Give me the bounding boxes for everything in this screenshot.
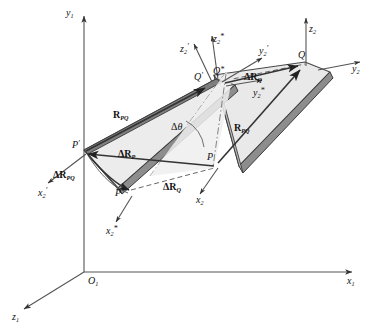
x1-axis-sub: 1 bbox=[351, 280, 354, 287]
delta-R-PQ-sub: PQ bbox=[67, 174, 76, 181]
point-P-star-label: P bbox=[114, 187, 121, 198]
delta-R-P-sub: P bbox=[132, 153, 136, 160]
point-P-prime-label: P bbox=[71, 139, 78, 150]
origin-sub: 1 bbox=[95, 280, 98, 287]
svg-text:z2: z2 bbox=[308, 23, 316, 35]
svg-text:x2′: x2′ bbox=[37, 186, 48, 199]
svg-text:P*: P* bbox=[114, 187, 125, 198]
angle-symbol: θ bbox=[177, 121, 182, 132]
point-P-star-mark: * bbox=[121, 187, 125, 196]
svg-text:Q′: Q′ bbox=[194, 71, 203, 82]
svg-text:RPQ: RPQ bbox=[113, 109, 129, 121]
undeformed-body bbox=[214, 62, 333, 173]
svg-text:z2′: z2′ bbox=[179, 42, 189, 55]
z2-axis-sub: 2 bbox=[313, 28, 316, 35]
origin-label: O bbox=[88, 275, 95, 286]
delta-R-Q-top-sub: Q bbox=[258, 76, 263, 83]
kinematics-figure: y1 x1 z1 O1 z2 y2 x2 Q P RPQ Q′ bbox=[0, 0, 376, 326]
svg-text:P′: P′ bbox=[71, 139, 80, 150]
svg-text:O1: O1 bbox=[88, 275, 98, 287]
svg-text:x1: x1 bbox=[346, 275, 355, 287]
y2-axis-sub: 2 bbox=[356, 68, 359, 75]
point-Q-label: Q bbox=[298, 49, 306, 60]
svg-text:Δθ: Δθ bbox=[171, 121, 182, 132]
point-Q-star-mark: * bbox=[220, 65, 224, 74]
z1-axis-sub: 1 bbox=[16, 316, 19, 323]
z1-axis-line bbox=[24, 272, 84, 309]
svg-text:ΔRPQ: ΔRPQ bbox=[53, 169, 75, 181]
svg-text:y2: y2 bbox=[351, 63, 360, 75]
x2-star-axis-line bbox=[116, 196, 132, 222]
z2-star-axis-mark: * bbox=[220, 32, 224, 41]
star-frame-at-P bbox=[116, 196, 132, 222]
svg-text:y1: y1 bbox=[65, 7, 74, 19]
svg-text:z1: z1 bbox=[11, 311, 19, 323]
point-P-prime-mark: ′ bbox=[78, 139, 80, 148]
y2-prime-axis-mark: ′ bbox=[267, 44, 269, 53]
delta-R-Q-bottom-sub: Q bbox=[177, 186, 182, 193]
reference-frame-at-P bbox=[200, 168, 218, 194]
z2-prime-axis-mark: ′ bbox=[187, 42, 189, 51]
svg-text:x2*: x2* bbox=[105, 224, 118, 237]
svg-text:x2: x2 bbox=[195, 194, 204, 206]
y2-star-axis-mark: * bbox=[261, 86, 265, 95]
svg-text:z2*: z2* bbox=[212, 32, 224, 45]
x2-prime-axis-mark: ′ bbox=[46, 186, 48, 195]
x2-star-axis-mark: * bbox=[114, 224, 118, 233]
R-PQ-displaced-sub: PQ bbox=[120, 114, 129, 121]
y1-axis-sub: 1 bbox=[70, 12, 73, 19]
svg-text:ΔRQ: ΔRQ bbox=[163, 181, 182, 193]
undeformed-body-top-face bbox=[214, 62, 330, 166]
point-P-label: P bbox=[206, 151, 213, 162]
x2-axis-line bbox=[200, 168, 218, 194]
svg-text:y2′: y2′ bbox=[258, 44, 269, 57]
R-PQ-reference-sub: PQ bbox=[241, 127, 250, 134]
x2-axis-sub: 2 bbox=[200, 199, 203, 206]
point-Q-prime-mark: ′ bbox=[201, 71, 203, 80]
